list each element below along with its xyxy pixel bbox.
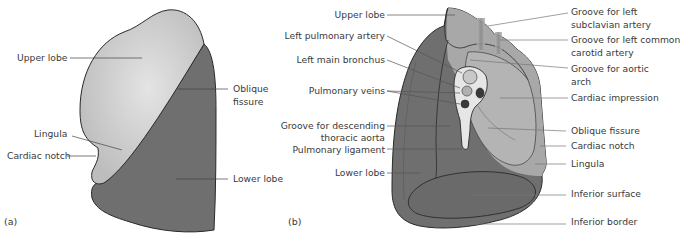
label-groove-carotid-1: Groove for left common [571,34,680,46]
groove-carotid [495,32,502,54]
pulmonary-vein-upper [476,88,484,98]
panel-b-tag: (b) [288,216,301,227]
label-groove-aortic-2: arch [571,76,591,88]
label-groove-descending-aorta-2: thoracic aorta [321,132,385,144]
label-oblique-fissure-a-2: fissure [233,96,263,108]
left-main-bronchus-vessel [462,86,472,96]
label-oblique-fissure-a-1: Oblique [233,83,268,95]
label-lower-lobe-a: Lower lobe [233,173,283,185]
label-lower-lobe-b: Lower lobe [335,167,385,179]
label-lingula-b: Lingula [571,158,604,170]
label-upper-lobe-a: Upper lobe [17,52,67,64]
label-cardiac-notch-b: Cardiac notch [571,140,635,152]
panel-a-tag: (a) [4,216,17,227]
label-lingula-a: Lingula [34,128,67,140]
pulmonary-vein-lower [461,100,469,108]
label-inferior-surface: Inferior surface [571,188,641,200]
label-groove-carotid-2: carotid artery [571,47,634,59]
label-groove-aortic-1: Groove for aortic [571,63,649,75]
label-cardiac-notch-a: Cardiac notch [7,150,71,162]
panel-a-lung [67,10,228,232]
label-groove-subclavian-2: subclavian artery [571,19,651,31]
groove-subclavian [477,18,485,50]
left-pulmonary-artery-vessel [463,70,477,84]
label-pulmonary-veins: Pulmonary veins [309,85,385,97]
label-pulmonary-ligament: Pulmonary ligament [292,144,385,156]
label-groove-descending-aorta-1: Groove for descending [281,120,385,132]
label-inferior-border: Inferior border [571,216,637,228]
label-left-main-bronchus: Left main bronchus [297,54,385,66]
label-groove-subclavian-1: Groove for left [571,6,637,18]
label-cardiac-impression: Cardiac impression [571,92,659,104]
label-left-pulmonary-artery: Left pulmonary artery [285,30,385,42]
label-oblique-fissure-b: Oblique fissure [571,125,640,137]
label-upper-lobe-b: Upper lobe [335,9,385,21]
